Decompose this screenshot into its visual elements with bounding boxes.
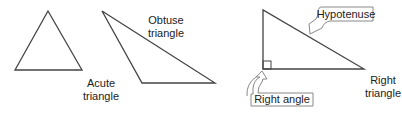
right-angle-marker bbox=[263, 61, 271, 69]
right-label-line2: triangle bbox=[365, 87, 401, 99]
right-triangle: Right triangle bbox=[263, 10, 401, 99]
acute-label-line2: triangle bbox=[83, 90, 119, 102]
hypotenuse-label: Hypotenuse bbox=[317, 8, 376, 20]
right-angle-callout: Right angle bbox=[247, 71, 313, 106]
acute-triangle-shape bbox=[15, 11, 82, 70]
triangle-types-diagram: Acute triangle Obtuse triangle Right tri… bbox=[0, 0, 402, 118]
obtuse-triangle: Obtuse triangle bbox=[102, 11, 215, 83]
obtuse-label-line2: triangle bbox=[148, 27, 184, 39]
hypotenuse-callout: Hypotenuse bbox=[309, 7, 375, 34]
right-angle-label: Right angle bbox=[254, 93, 310, 105]
acute-triangle: Acute triangle bbox=[15, 11, 119, 102]
obtuse-label-line1: Obtuse bbox=[148, 14, 183, 26]
right-label-line1: Right bbox=[370, 74, 396, 86]
acute-label-line1: Acute bbox=[87, 77, 115, 89]
